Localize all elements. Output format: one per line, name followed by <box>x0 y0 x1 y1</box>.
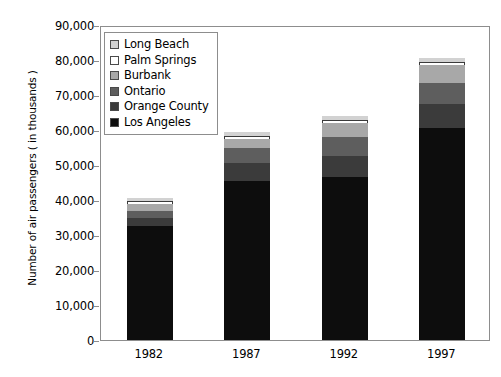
y-axis-label-60000: 60,000 <box>55 124 94 138</box>
bar-segment-los-angeles-1997[interactable] <box>419 128 465 340</box>
legend-item-long-beach[interactable]: Long Beach <box>110 37 209 53</box>
bar-segment-los-angeles-1992[interactable] <box>322 177 368 340</box>
bar-segment-ontario-1987[interactable] <box>224 148 270 164</box>
legend-item-los-angeles[interactable]: Los Angeles <box>110 115 209 131</box>
legend: Long BeachPalm SpringsBurbankOntarioOran… <box>104 32 218 135</box>
bar-segment-burbank-1997[interactable] <box>419 65 465 83</box>
y-axis-tick-50000 <box>94 166 99 167</box>
y-axis-tick-0 <box>94 341 99 342</box>
legend-item-palm-springs[interactable]: Palm Springs <box>110 53 209 69</box>
legend-swatch-icon <box>110 40 119 49</box>
legend-swatch-icon <box>110 118 119 127</box>
legend-rows: Long BeachPalm SpringsBurbankOntarioOran… <box>110 37 209 130</box>
x-axis-label-1992: 1992 <box>299 347 389 361</box>
y-axis-tick-30000 <box>94 236 99 237</box>
stacked-bar-chart: Number of air passengers ( in thousands … <box>0 0 501 377</box>
y-axis-tick-labels: 010,00020,00030,00040,00050,00060,00070,… <box>22 0 94 377</box>
y-axis-label-50000: 50,000 <box>55 159 94 173</box>
bar-segment-los-angeles-1987[interactable] <box>224 181 270 340</box>
bar-1992[interactable] <box>322 116 368 340</box>
legend-item-label: Los Angeles <box>124 117 190 129</box>
legend-swatch-icon <box>110 87 119 96</box>
legend-item-ontario[interactable]: Ontario <box>110 84 209 100</box>
bar-segment-burbank-1987[interactable] <box>224 139 270 148</box>
legend-item-label: Palm Springs <box>124 55 196 67</box>
y-axis-label-80000: 80,000 <box>55 54 94 68</box>
bar-1987[interactable] <box>224 132 270 340</box>
y-axis-label-40000: 40,000 <box>55 194 94 208</box>
legend-swatch-icon <box>110 102 119 111</box>
bar-segment-orange-county-1997[interactable] <box>419 104 465 129</box>
bar-segment-ontario-1982[interactable] <box>127 211 173 218</box>
bar-1997[interactable] <box>419 58 465 340</box>
bar-1982[interactable] <box>127 198 173 340</box>
y-axis-tick-60000 <box>94 131 99 132</box>
bar-segment-orange-county-1987[interactable] <box>224 163 270 181</box>
y-axis-label-90000: 90,000 <box>55 19 94 33</box>
y-axis-label-10000: 10,000 <box>55 299 94 313</box>
legend-item-orange-county[interactable]: Orange County <box>110 99 209 115</box>
y-axis-label-70000: 70,000 <box>55 89 94 103</box>
x-axis-label-1982: 1982 <box>104 347 194 361</box>
y-axis-tick-10000 <box>94 306 99 307</box>
y-axis-tick-80000 <box>94 61 99 62</box>
legend-swatch-icon <box>110 71 119 80</box>
y-axis-tick-70000 <box>94 96 99 97</box>
legend-item-label: Burbank <box>124 70 171 82</box>
bar-segment-burbank-1982[interactable] <box>127 204 173 211</box>
x-axis-label-1997: 1997 <box>396 347 486 361</box>
bar-segment-orange-county-1982[interactable] <box>127 218 173 227</box>
y-axis-label-20000: 20,000 <box>55 264 94 278</box>
y-axis-tick-20000 <box>94 271 99 272</box>
legend-item-label: Orange County <box>124 101 209 113</box>
bar-segment-burbank-1992[interactable] <box>322 123 368 137</box>
x-axis-label-1987: 1987 <box>201 347 291 361</box>
y-axis-tick-90000 <box>94 26 99 27</box>
bar-segment-ontario-1992[interactable] <box>322 137 368 156</box>
legend-swatch-icon <box>110 56 119 65</box>
y-axis-tick-40000 <box>94 201 99 202</box>
legend-item-label: Long Beach <box>124 39 189 51</box>
y-axis-label-0: 0 <box>87 334 94 348</box>
bar-segment-ontario-1997[interactable] <box>419 83 465 104</box>
bar-segment-orange-county-1992[interactable] <box>322 156 368 177</box>
legend-item-label: Ontario <box>124 86 165 98</box>
y-axis-label-30000: 30,000 <box>55 229 94 243</box>
bar-segment-los-angeles-1982[interactable] <box>127 226 173 340</box>
legend-item-burbank[interactable]: Burbank <box>110 68 209 84</box>
